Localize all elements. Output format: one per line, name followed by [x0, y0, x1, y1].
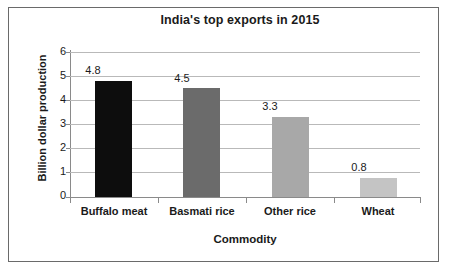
x-category-label-basmati-rice: Basmati rice: [152, 205, 252, 217]
x-tick-mark-2: [246, 197, 247, 203]
bar-value-other-rice: 3.3: [240, 100, 300, 112]
x-tick-mark-3: [334, 197, 335, 203]
bar-basmati-rice[interactable]: [183, 88, 220, 197]
bar-other-rice[interactable]: [272, 117, 309, 197]
x-tick-mark-1: [158, 197, 159, 203]
bar-buffalo-meat[interactable]: [95, 81, 132, 197]
y-tick-label-6: 6: [46, 45, 66, 57]
x-category-label-buffalo-meat: Buffalo meat: [64, 205, 164, 217]
gridline-6: [70, 52, 420, 53]
x-category-label-wheat: Wheat: [328, 205, 428, 217]
y-tick-label-2: 2: [46, 141, 66, 153]
chart-screenshot: India's top exports in 2015 Billion doll…: [0, 0, 450, 275]
x-tick-mark-4: [420, 197, 421, 203]
bar-value-basmati-rice: 4.5: [152, 72, 212, 84]
x-category-label-other-rice: Other rice: [240, 205, 340, 217]
y-tick-label-0: 0: [46, 189, 66, 201]
bar-value-buffalo-meat: 4.8: [63, 64, 123, 76]
gridline-5: [70, 76, 420, 77]
x-axis-title: Commodity: [70, 233, 420, 245]
y-tick-label-1: 1: [46, 165, 66, 177]
x-tick-mark-0: [70, 197, 71, 203]
chart-title: India's top exports in 2015: [60, 13, 420, 27]
y-tick-label-3: 3: [46, 117, 66, 129]
bar-wheat[interactable]: [360, 178, 397, 197]
bar-value-wheat: 0.8: [329, 161, 389, 173]
y-tick-label-4: 4: [46, 93, 66, 105]
